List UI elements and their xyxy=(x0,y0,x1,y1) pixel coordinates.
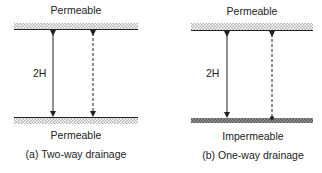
thickness-label-a: 2H xyxy=(33,67,46,79)
caption-b: (b) One-way drainage xyxy=(202,149,304,161)
top-boundary-label-b: Permeable xyxy=(227,5,278,17)
thickness-label-b: 2H xyxy=(206,67,219,79)
bottom-permeable-layer-a xyxy=(14,118,138,124)
bottom-impermeable-layer-b xyxy=(191,118,313,123)
caption-a: (a) Two-way drainage xyxy=(26,148,127,160)
bottom-boundary-label-b: Impermeable xyxy=(222,130,283,142)
top-permeable-layer-b xyxy=(191,23,313,30)
bottom-boundary-label-a: Permeable xyxy=(51,129,102,141)
top-boundary-label-a: Permeable xyxy=(51,4,102,16)
impermeable-dot-b xyxy=(270,116,274,120)
top-permeable-layer-a xyxy=(14,23,138,29)
